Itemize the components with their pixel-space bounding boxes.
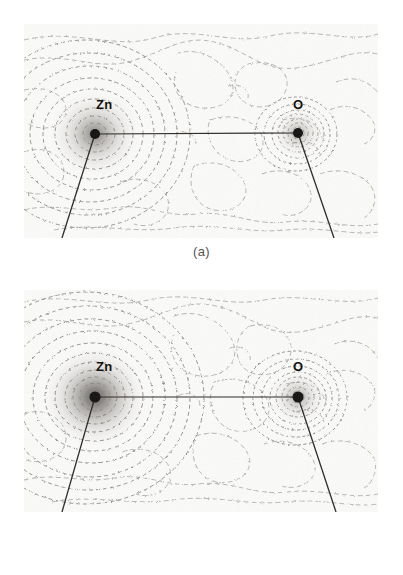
panel-a: Zn O (a)	[0, 0, 403, 285]
panel-b: Zn O (b)	[0, 285, 403, 575]
atom-label-zn-b: Zn	[96, 360, 112, 373]
atom-label-o-a: O	[293, 98, 303, 111]
atom-label-o-b: O	[293, 360, 303, 373]
panel-caption-a: (a)	[0, 244, 403, 259]
paper-grain-a	[24, 24, 378, 238]
density-map-a: Zn O	[24, 24, 378, 238]
contour-plot-b	[24, 290, 378, 512]
electron-density-figure: Zn O (a)	[0, 0, 403, 575]
paper-grain-b	[24, 290, 378, 512]
atom-label-zn-a: Zn	[96, 98, 112, 111]
contour-plot-a	[24, 24, 378, 238]
density-map-b: Zn O	[24, 290, 378, 512]
